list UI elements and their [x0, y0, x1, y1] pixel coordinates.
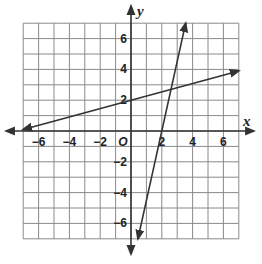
x-tick-label: 4 [189, 135, 196, 149]
coordinate-plane: xy −6−4−2246642−2−4−6O [0, 0, 262, 264]
y-tick-label: 4 [120, 62, 127, 76]
y-tick-label: −6 [113, 216, 127, 230]
axes: xy [6, 3, 254, 254]
x-tick-label: 6 [220, 135, 227, 149]
y-tick-label: 6 [120, 32, 127, 46]
y-tick-label: −4 [113, 186, 127, 200]
x-tick-label: −2 [93, 135, 107, 149]
y-tick-label: 2 [120, 93, 127, 107]
y-axis-label: y [135, 3, 144, 19]
origin-label: O [118, 135, 128, 149]
x-axis-label: x [242, 113, 251, 129]
x-tick-label: −4 [63, 135, 77, 149]
x-tick-label: −6 [32, 135, 46, 149]
y-tick-label: −2 [113, 155, 127, 169]
